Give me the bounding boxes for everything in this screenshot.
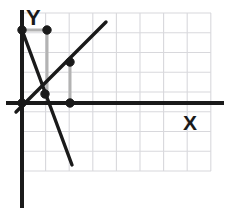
y-axis-label: Y	[26, 7, 41, 29]
grid-lines	[22, 13, 211, 171]
point-on-ascending	[66, 58, 74, 66]
x-axis-label: X	[183, 112, 197, 133]
coordinate-plane-svg	[0, 0, 237, 215]
point-origin	[18, 99, 26, 107]
point-y-intercept	[18, 26, 26, 34]
point-x-axis	[66, 99, 74, 107]
point-upper-right	[43, 26, 51, 34]
graph-figure: Y X	[0, 0, 237, 215]
point-intersection	[41, 90, 49, 98]
axis-lines	[6, 10, 224, 208]
